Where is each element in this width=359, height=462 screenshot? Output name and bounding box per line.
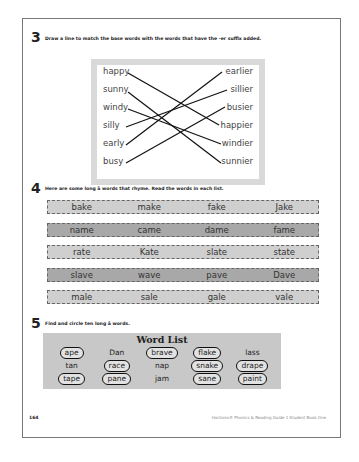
rhyme-row: slave wave pave Dave: [47, 268, 319, 282]
book-title: Horizons® Phonics & Reading Guide 1 Stud…: [212, 415, 326, 420]
rhyme-word: sale: [116, 292, 184, 302]
section-5-number: 5: [31, 315, 41, 331]
rhyme-word: make: [116, 202, 184, 212]
rhyme-word: fame: [251, 225, 319, 235]
word[interactable]: tan: [61, 361, 81, 371]
page-number: 164: [29, 415, 38, 420]
suffix-word: earlier: [226, 66, 253, 76]
suffix-word: sunnier: [221, 156, 253, 166]
word-list-box: Word List ape Dan brave flake lass tan r…: [43, 333, 281, 389]
rhyme-row: bake make fake Jake: [47, 200, 319, 214]
word-circled[interactable]: ape: [60, 347, 84, 359]
rhyme-word: Jake: [251, 202, 319, 212]
base-word: busy: [103, 156, 123, 166]
word-circled[interactable]: snake: [191, 360, 223, 372]
rhyme-word: slave: [48, 270, 116, 280]
word[interactable]: nap: [151, 361, 173, 371]
word-circled[interactable]: flake: [193, 347, 221, 359]
word-list-title: Word List: [43, 334, 281, 345]
word-circled[interactable]: tape: [58, 373, 85, 385]
base-word: silly: [103, 120, 120, 130]
rhyme-word: Dave: [251, 270, 319, 280]
rhyme-word: wave: [116, 270, 184, 280]
section-4-instruction: Here are some long ā words that rhyme. R…: [45, 186, 224, 191]
rhyme-word: came: [116, 225, 184, 235]
rhyme-word: state: [251, 247, 319, 257]
word-circled[interactable]: race: [104, 360, 130, 372]
section-3-instruction: Draw a line to match the base words with…: [45, 36, 261, 41]
rhyme-word: name: [48, 225, 116, 235]
suffix-word: busier: [227, 102, 253, 112]
section-5-instruction: Find and circle ten long ā words.: [45, 321, 130, 326]
rhyme-word: male: [48, 292, 116, 302]
word-circled[interactable]: paint: [238, 373, 267, 385]
rhyme-word: fake: [183, 202, 251, 212]
base-word: windy: [103, 102, 128, 112]
word[interactable]: lass: [241, 348, 264, 358]
word-circled[interactable]: drape: [236, 360, 268, 372]
rhyme-word: bake: [48, 202, 116, 212]
word-circled[interactable]: sane: [193, 373, 221, 385]
base-word: sunny: [103, 84, 129, 94]
word-list-grid: ape Dan brave flake lass tan race nap sn…: [49, 347, 275, 384]
worksheet-page: 3 Draw a line to match the base words wi…: [22, 18, 341, 438]
suffix-word: happier: [221, 120, 253, 130]
rhyme-word: vale: [251, 292, 319, 302]
word[interactable]: Dan: [105, 348, 128, 358]
rhyme-row: male sale gale vale: [47, 290, 319, 304]
rhyme-word: rate: [48, 247, 116, 257]
rhyme-word: pave: [183, 270, 251, 280]
rhyme-word: slate: [183, 247, 251, 257]
rhyme-row: rate Kate slate state: [47, 245, 319, 259]
word[interactable]: jam: [151, 374, 173, 384]
section-3-number: 3: [31, 29, 41, 45]
word-circled[interactable]: brave: [146, 347, 178, 359]
suffix-word: windier: [222, 138, 253, 148]
matching-area[interactable]: happy sunny windy silly early busy earli…: [97, 65, 259, 179]
matching-box: happy sunny windy silly early busy earli…: [91, 59, 265, 185]
rhyme-word: gale: [183, 292, 251, 302]
rhyme-row: name came dame fame: [47, 223, 319, 237]
suffix-word: sillier: [230, 84, 253, 94]
base-word: happy: [103, 66, 129, 76]
section-4-number: 4: [31, 180, 41, 196]
rhyme-word: Kate: [116, 247, 184, 257]
base-word: early: [103, 138, 124, 148]
rhyme-word: dame: [183, 225, 251, 235]
word-circled[interactable]: pane: [102, 373, 131, 385]
